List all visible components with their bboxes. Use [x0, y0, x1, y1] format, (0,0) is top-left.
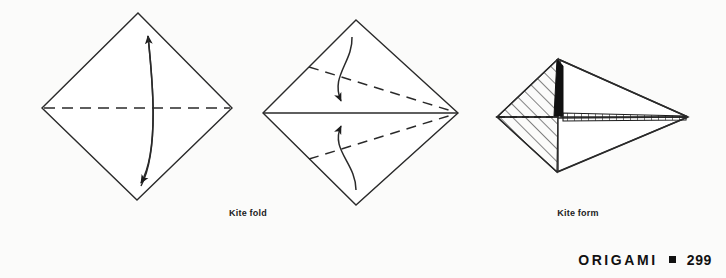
figure-kite-fold-step-2	[263, 20, 458, 205]
square-sheet-outline	[42, 13, 232, 200]
figure-kite-fold-step-1	[42, 13, 232, 200]
page-number: 299	[687, 252, 712, 268]
square-bullet-icon	[669, 256, 676, 263]
caption-kite-fold: Kite fold	[229, 208, 267, 218]
footer-chapter-title: ORIGAMI	[578, 252, 658, 268]
caption-kite-form: Kite form	[557, 208, 598, 218]
figure-kite-form-result	[497, 59, 688, 172]
page-footer: ORIGAMI 299	[578, 252, 712, 268]
book-page: Kite fold Kite form ORIGAMI 299	[0, 0, 726, 278]
origami-diagrams	[0, 0, 726, 278]
